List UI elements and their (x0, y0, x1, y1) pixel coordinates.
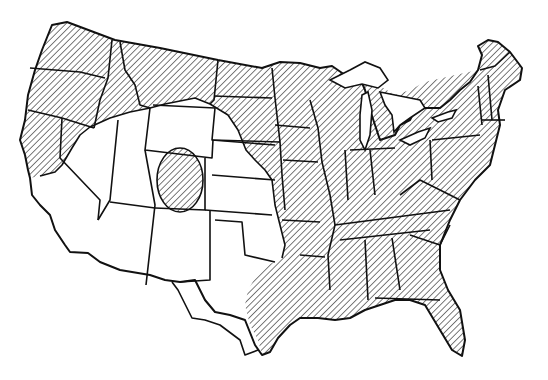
us-map: Continental United States distribution m… (0, 0, 548, 380)
hatched-region-main (20, 22, 522, 356)
map-canvas (0, 0, 548, 380)
lake-superior (330, 62, 388, 88)
